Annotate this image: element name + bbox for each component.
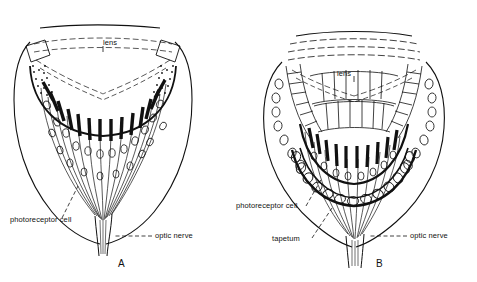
- label-lens-a: lens: [103, 38, 117, 47]
- panel-a-cornea-line: [40, 25, 160, 28]
- panel-b-retina-arc: [300, 124, 408, 184]
- panel-b-cornea-line-3: [288, 47, 420, 52]
- panel-b-cornea-line-2: [290, 39, 418, 44]
- panel-b-middle-cell-band: [310, 70, 398, 104]
- panel-letter-a: A: [118, 258, 125, 269]
- panel-a-outer-wall-right: [106, 42, 192, 244]
- label-optic-nerve-a: optic nerve: [155, 231, 193, 240]
- panel-a-optic-nerve-left-edge: [95, 216, 99, 256]
- panel-b-photoreceptor-nuclei: [311, 151, 396, 180]
- panel-b-outer-wall-right: [356, 62, 444, 247]
- panel-b-second-cell-row: [314, 100, 394, 132]
- eye-anatomy-diagram: [0, 0, 477, 282]
- panel-b-cornea-line-1: [296, 32, 412, 37]
- label-photoreceptor-cell-a: photoreceptor cell: [10, 215, 71, 224]
- panel-b-rhabdoms: [309, 128, 397, 168]
- panel-b-optic-nerve-right-edge: [361, 234, 364, 268]
- panel-b-optic-nerve-fibres: [352, 240, 358, 266]
- panel-a-optic-nerve-fibres: [100, 220, 106, 254]
- panel-b-outer-nuclei: [271, 78, 436, 171]
- panel-b-epithelium-left: [286, 64, 322, 138]
- panel-b-optic-nerve-left-edge: [346, 236, 349, 268]
- panel-a-outer-wall-left: [14, 42, 100, 244]
- label-tapetum-b: tapetum: [272, 234, 300, 243]
- label-photoreceptor-cell-b: photoreceptor cell: [236, 201, 297, 210]
- panel-b-epithelium-right: [386, 64, 422, 138]
- panel-a-optic-nerve-right-edge: [107, 214, 112, 256]
- panel-a-photoreceptor-leader: [62, 186, 78, 218]
- panel-letter-b: B: [376, 258, 383, 269]
- label-optic-nerve-b: optic nerve: [410, 231, 448, 240]
- panel-b-cornea-line-4: [288, 55, 420, 60]
- panel-b-tapetum-leader: [312, 208, 332, 238]
- label-lens-b: lens: [337, 69, 351, 78]
